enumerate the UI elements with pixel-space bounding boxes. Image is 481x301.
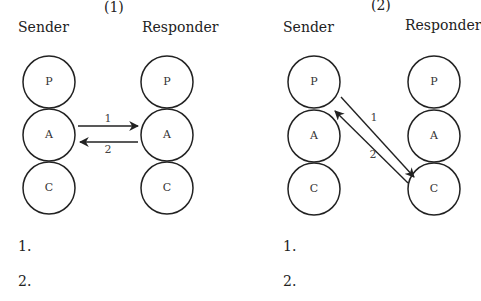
diagram-1-answer-1: 1. [18, 238, 31, 254]
transaction-2-label: 2 [370, 148, 377, 161]
responder-parent-text: P [163, 75, 171, 88]
responder-adult-text: A [162, 128, 172, 141]
transaction-1-arrow [341, 97, 414, 177]
diagram-2-sender-ego-states: P A C [288, 56, 340, 215]
diagram-1-sender-ego-states: P A C [23, 56, 75, 214]
diagram-2-answer-1: 1. [283, 238, 296, 254]
sender-child-text: C [310, 182, 318, 195]
transaction-1-label: 1 [371, 111, 378, 124]
diagram-2-responder-ego-states: P A C [408, 56, 460, 215]
sender-child-text: C [45, 181, 53, 194]
transaction-1-label: 1 [105, 112, 112, 125]
diagram-1-answer-2: 2. [18, 273, 31, 289]
sender-parent-text: P [310, 75, 318, 88]
responder-parent-text: P [430, 75, 438, 88]
responder-adult-text: A [429, 129, 439, 142]
transaction-2-label: 2 [105, 143, 112, 156]
responder-child-text: C [163, 181, 171, 194]
responder-child-text: C [430, 182, 438, 195]
diagram-2-answer-2: 2. [283, 273, 296, 289]
sender-adult-text: A [309, 129, 319, 142]
sender-parent-text: P [45, 75, 53, 88]
diagram-1-responder-ego-states: P A C [141, 56, 193, 214]
sender-adult-text: A [44, 128, 54, 141]
